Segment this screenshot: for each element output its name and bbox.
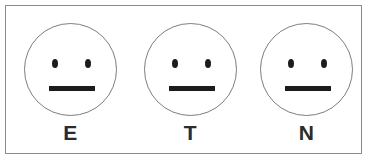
face-group-e: E bbox=[24, 23, 120, 148]
eye-left-icon bbox=[288, 59, 294, 68]
eye-left-icon bbox=[52, 59, 58, 68]
face-label-t: T bbox=[144, 121, 237, 145]
mouth-icon bbox=[285, 86, 331, 91]
eye-right-icon bbox=[205, 59, 211, 68]
face-label-n: N bbox=[260, 121, 353, 145]
figure-frame: E T N bbox=[5, 5, 362, 154]
mouth-icon bbox=[49, 86, 95, 91]
face-circle-icon bbox=[24, 23, 117, 116]
face-circle-icon bbox=[144, 23, 237, 116]
face-circle-icon bbox=[260, 23, 353, 116]
eye-left-icon bbox=[172, 59, 178, 68]
face-group-n: N bbox=[260, 23, 356, 148]
face-group-t: T bbox=[144, 23, 240, 148]
figure-root: E T N bbox=[0, 0, 368, 162]
face-label-e: E bbox=[24, 121, 117, 145]
eye-right-icon bbox=[85, 59, 91, 68]
eye-right-icon bbox=[321, 59, 327, 68]
mouth-icon bbox=[169, 86, 215, 91]
